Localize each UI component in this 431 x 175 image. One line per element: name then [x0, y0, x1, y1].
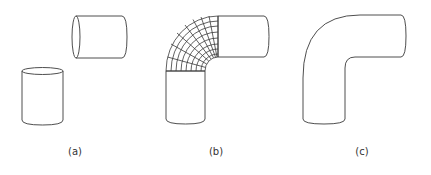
horizontal-cylinder: [72, 16, 127, 58]
panel-a-label: (a): [68, 146, 82, 157]
vertical-cylinder: [22, 68, 63, 126]
panel-c-label: (c): [355, 146, 368, 157]
blended-elbow-outline: [303, 15, 406, 124]
elbow-mesh: [166, 16, 218, 71]
panel-b-label: (b): [209, 146, 223, 157]
panel-b-drawing: [166, 16, 269, 124]
panel-a-drawing: [22, 16, 127, 125]
panel-c-drawing: [303, 15, 406, 124]
